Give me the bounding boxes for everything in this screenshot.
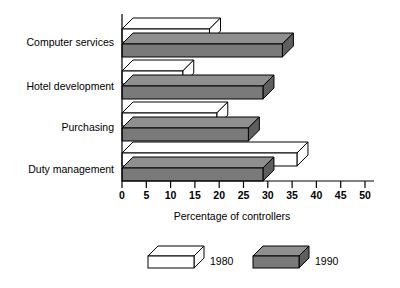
x-tick-label-45: 45: [335, 189, 347, 201]
x-tick-label-20: 20: [213, 189, 225, 201]
x-tick-label-10: 10: [165, 189, 177, 201]
bar-1990-1: [122, 75, 274, 99]
x-tick-label-30: 30: [262, 189, 274, 201]
category-label-computer-services: Computer services: [26, 36, 114, 48]
x-tick-label-5: 5: [143, 189, 149, 201]
category-label-hotel-development: Hotel development: [26, 80, 114, 92]
legend-swatch-1980: [148, 256, 194, 268]
bar-1990-3: [122, 157, 274, 181]
bar-1990-2: [122, 117, 259, 141]
x-tick-label-35: 35: [286, 189, 298, 201]
category-label-duty-management: Duty management: [28, 163, 114, 175]
chart-container: Computer services Hotel development Purc…: [0, 0, 400, 288]
category-label-purchasing: Purchasing: [61, 121, 114, 133]
bar-1990-0: [122, 33, 293, 57]
axis-title: Percentage of controllers: [174, 210, 291, 222]
x-tick-label-15: 15: [189, 189, 201, 201]
legend-label-1980: 1980: [210, 255, 234, 267]
x-tick-label-50: 50: [359, 189, 371, 201]
x-tick-label-0: 0: [119, 189, 125, 201]
x-tick-label-25: 25: [238, 189, 250, 201]
legend-swatch-1990: [253, 256, 299, 268]
x-tick-label-40: 40: [311, 189, 323, 201]
legend-label-1990: 1990: [315, 255, 339, 267]
grouped-bar-chart: Computer services Hotel development Purc…: [0, 0, 400, 288]
